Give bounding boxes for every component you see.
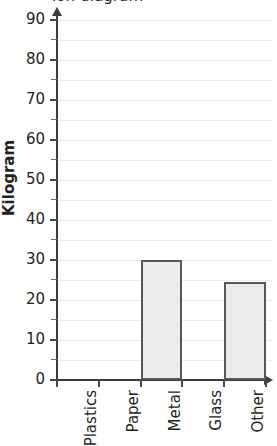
- y-axis-tick-major: [50, 219, 57, 221]
- gridline: [57, 240, 272, 241]
- y-axis-tick-major: [50, 139, 57, 141]
- y-axis-tick-major: [50, 19, 57, 21]
- y-axis-tick-major: [50, 59, 57, 61]
- y-axis-tick-major: [50, 299, 57, 301]
- gridline: [57, 100, 272, 101]
- gridline: [57, 200, 272, 201]
- bar: [224, 282, 266, 380]
- y-axis-tick-minor: [51, 239, 57, 240]
- gridline: [57, 220, 272, 221]
- y-axis-arrowhead: [52, 7, 62, 16]
- y-axis-tick-minor: [51, 279, 57, 280]
- x-axis-tick: [223, 379, 225, 387]
- y-axis-tick-label: 80: [5, 52, 45, 67]
- y-axis-tick-label: 90: [5, 12, 45, 27]
- y-axis-tick-major: [50, 259, 57, 261]
- y-axis-tick-major: [50, 99, 57, 101]
- bar: [141, 260, 183, 380]
- chart-title: ion diagram: [52, 0, 143, 5]
- y-axis-title: Kilogram: [2, 140, 17, 216]
- y-axis-tick-minor: [51, 39, 57, 40]
- y-axis-tick-label: 10: [5, 332, 45, 347]
- gridline: [57, 40, 272, 41]
- gridline: [57, 180, 272, 181]
- y-axis-tick-label: 70: [5, 92, 45, 107]
- y-axis-tick-minor: [51, 119, 57, 120]
- x-axis-tick: [98, 379, 100, 387]
- y-axis-tick-minor: [51, 79, 57, 80]
- x-axis-label-text: Paper: [126, 390, 141, 432]
- y-axis-tick-label: 30: [5, 252, 45, 267]
- x-axis-label-text: Other: [251, 390, 266, 433]
- x-axis-label: Plastics: [84, 390, 99, 446]
- x-axis-label-text: Glass: [209, 390, 224, 431]
- x-axis-tick: [140, 379, 142, 387]
- gridline: [57, 140, 272, 141]
- y-axis-tick-minor: [51, 159, 57, 160]
- x-axis-label-text: Metal: [168, 390, 183, 431]
- x-axis-tick: [265, 379, 267, 387]
- x-axis-tick: [56, 379, 58, 387]
- y-axis-line: [56, 14, 58, 381]
- y-axis-tick-major: [50, 339, 57, 341]
- y-axis-tick-minor: [51, 319, 57, 320]
- x-axis-label: Metal: [168, 390, 183, 431]
- x-axis-label: Glass: [209, 390, 224, 431]
- y-axis-tick-label: 20: [5, 292, 45, 307]
- y-axis-tick-major: [50, 179, 57, 181]
- x-axis-label: Paper: [126, 390, 141, 432]
- gridline: [57, 20, 272, 21]
- gridline: [57, 160, 272, 161]
- x-axis-label: Other: [251, 390, 266, 433]
- gridline: [57, 60, 272, 61]
- gridline: [57, 80, 272, 81]
- gridline: [57, 120, 272, 121]
- y-axis-tick-label: 0: [5, 372, 45, 387]
- x-axis-tick: [181, 379, 183, 387]
- y-axis-tick-minor: [51, 199, 57, 200]
- x-axis-label-text: Plastics: [84, 390, 99, 446]
- y-axis-tick-minor: [51, 359, 57, 360]
